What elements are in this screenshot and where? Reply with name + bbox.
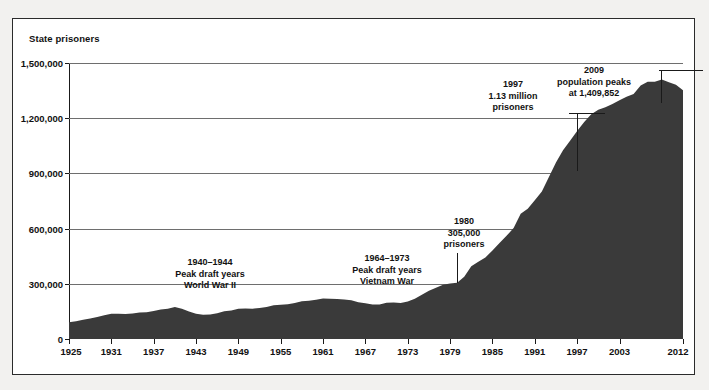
x-tick-mark-1967 bbox=[365, 339, 366, 344]
x-tick-mark-1961 bbox=[323, 339, 324, 344]
y-tick-label-0: 0 bbox=[58, 334, 63, 345]
x-tick-mark-2012 bbox=[683, 339, 684, 344]
chart-figure: State prisoners 1,500,000 1,200,000 900,… bbox=[12, 18, 695, 375]
annotation-1980-leader bbox=[457, 253, 458, 283]
x-tick-mark-1925 bbox=[69, 339, 70, 344]
annotation-1997-line3: prisoners bbox=[461, 102, 565, 114]
x-tick-label-1973: 1973 bbox=[397, 346, 418, 357]
x-tick-mark-1943 bbox=[196, 339, 197, 344]
annotation-2009: 2009 population peaks at 1,409,852 bbox=[533, 65, 655, 100]
y-tick-label-600000: 600,000 bbox=[29, 223, 63, 234]
x-tick-mark-1931 bbox=[111, 339, 112, 344]
area-series bbox=[69, 63, 683, 339]
x-tick-mark-1985 bbox=[492, 339, 493, 344]
annotation-1997-leader-horizontal bbox=[569, 113, 605, 114]
x-tick-label-1967: 1967 bbox=[355, 346, 376, 357]
x-tick-mark-1991 bbox=[535, 339, 536, 344]
x-tick-mark-1937 bbox=[154, 339, 155, 344]
x-tick-mark-1955 bbox=[281, 339, 282, 344]
x-tick-mark-1979 bbox=[450, 339, 451, 344]
annotation-vietnam: 1964–1973 Peak draft years Vietnam War bbox=[322, 253, 452, 288]
annotation-1980-line2: 305,000 bbox=[421, 228, 507, 240]
x-tick-label-1979: 1979 bbox=[440, 346, 461, 357]
annotation-1980-line1: 1980 bbox=[421, 216, 507, 228]
annotation-wwii: 1940–1944 Peak draft years World War II bbox=[145, 257, 275, 292]
annotation-wwii-line3: World War II bbox=[145, 280, 275, 292]
annotation-1980: 1980 305,000 prisoners bbox=[421, 216, 507, 251]
x-tick-label-1931: 1931 bbox=[101, 346, 122, 357]
x-tick-label-1943: 1943 bbox=[185, 346, 206, 357]
annotation-1980-line3: prisoners bbox=[421, 239, 507, 251]
annotation-2009-leader-vertical bbox=[661, 70, 662, 103]
x-tick-label-1955: 1955 bbox=[270, 346, 291, 357]
y-axis-title: State prisoners bbox=[29, 33, 100, 44]
annotation-2009-leader-horizontal bbox=[659, 70, 703, 71]
x-tick-label-1949: 1949 bbox=[228, 346, 249, 357]
annotation-wwii-line1: 1940–1944 bbox=[145, 257, 275, 269]
annotation-2009-line3: at 1,409,852 bbox=[533, 88, 655, 100]
annotation-2009-line2: population peaks bbox=[533, 77, 655, 89]
x-tick-label-1991: 1991 bbox=[524, 346, 545, 357]
x-tick-label-1925: 1925 bbox=[60, 346, 81, 357]
annotation-1997-leader-vertical bbox=[577, 113, 578, 171]
y-tick-label-1500000: 1,500,000 bbox=[21, 58, 63, 69]
x-tick-mark-1997 bbox=[577, 339, 578, 344]
y-tick-label-1200000: 1,200,000 bbox=[21, 113, 63, 124]
annotation-2009-line1: 2009 bbox=[533, 65, 655, 77]
x-tick-label-1961: 1961 bbox=[313, 346, 334, 357]
x-tick-label-2003: 2003 bbox=[609, 346, 630, 357]
y-tick-label-900000: 900,000 bbox=[29, 168, 63, 179]
x-tick-mark-1973 bbox=[408, 339, 409, 344]
x-tick-mark-1949 bbox=[238, 339, 239, 344]
x-tick-mark-2003 bbox=[620, 339, 621, 344]
x-tick-label-1985: 1985 bbox=[482, 346, 503, 357]
annotation-vietnam-line1: 1964–1973 bbox=[322, 253, 452, 265]
annotation-wwii-line2: Peak draft years bbox=[145, 269, 275, 281]
y-tick-label-300000: 300,000 bbox=[29, 278, 63, 289]
x-tick-label-1997: 1997 bbox=[567, 346, 588, 357]
plot-area: 1,500,000 1,200,000 900,000 600,000 300,… bbox=[69, 63, 683, 339]
x-tick-label-1937: 1937 bbox=[143, 346, 164, 357]
x-tick-label-2012: 2012 bbox=[667, 346, 688, 357]
annotation-vietnam-line3: Vietnam War bbox=[322, 276, 452, 288]
annotation-vietnam-line2: Peak draft years bbox=[322, 265, 452, 277]
